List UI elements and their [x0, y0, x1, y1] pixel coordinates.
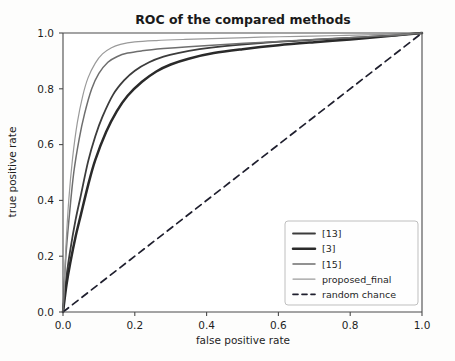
legend-label-1[interactable]: [3]	[322, 243, 335, 254]
y-tick-label-1: 0.2	[37, 250, 54, 262]
x-tick-label-5: 1.0	[414, 319, 431, 331]
y-tick-label-0: 0.0	[37, 306, 54, 318]
roc-chart-figure: ROC of the compared methods 0.00.20.40.6…	[0, 0, 455, 361]
legend-label-4[interactable]: random chance	[322, 289, 396, 300]
y-tick-label-4: 0.8	[37, 83, 54, 95]
x-tick-label-4: 0.8	[342, 319, 359, 331]
roc-plot-svg: ROC of the compared methods 0.00.20.40.6…	[0, 0, 455, 361]
x-tick-label-0: 0.0	[55, 319, 72, 331]
legend-label-3[interactable]: proposed_final	[322, 274, 391, 285]
x-tick-label-3: 0.6	[270, 319, 287, 331]
chart-legend[interactable]: [13][3][15]proposed_finalrandom chance	[285, 221, 418, 305]
legend-label-2[interactable]: [15]	[322, 259, 342, 270]
y-tick-label-5: 1.0	[37, 27, 54, 39]
x-tick-label-1: 0.2	[126, 319, 143, 331]
x-axis-label: false positive rate	[196, 334, 290, 346]
x-tick-label-2: 0.4	[198, 319, 215, 331]
chart-title: ROC of the compared methods	[135, 12, 351, 27]
y-tick-label-2: 0.4	[37, 194, 54, 206]
y-tick-label-3: 0.6	[37, 138, 54, 150]
legend-label-0[interactable]: [13]	[322, 228, 342, 239]
y-axis-label: true positive rate	[6, 127, 18, 218]
